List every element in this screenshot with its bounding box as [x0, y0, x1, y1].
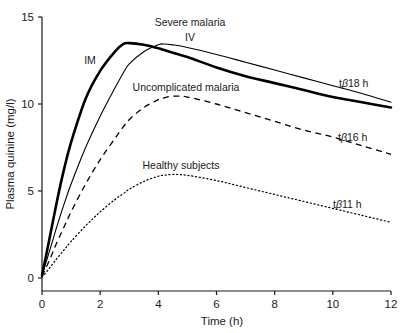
label-uncomplicated-malaria: Uncomplicated malaria: [133, 81, 240, 93]
x-axis-tick-label: 12: [385, 298, 398, 310]
y-axis-tick-label: 15: [21, 11, 34, 23]
half-life-18-value: 18 h: [348, 77, 369, 89]
curve-uncomplicated-malaria: [42, 96, 391, 276]
curve-annotations: Severe malaria IM IV Uncomplicated malar…: [84, 16, 368, 210]
x-axis-title: Time (h): [201, 315, 244, 327]
label-iv: IV: [185, 31, 195, 43]
label-healthy-subjects: Healthy subjects: [142, 159, 219, 171]
half-life-16-beta: β: [340, 131, 347, 143]
quinine-pharmacokinetics-figure: 051015 024681012 Time (h) Plasma quinine…: [0, 0, 405, 333]
half-life-18-beta: β: [341, 77, 348, 89]
half-life-11-value: 11 h: [342, 198, 362, 210]
label-half-life-18: tβ18 h: [339, 77, 369, 89]
half-life-11-beta: β: [335, 198, 342, 210]
curve-healthy-subjects: [42, 174, 391, 277]
label-half-life-11: tβ11 h: [333, 198, 362, 210]
y-axis-tick-labels: 051015: [21, 11, 34, 284]
x-axis-tick-label: 0: [39, 298, 45, 310]
x-axis-tick-label: 10: [326, 298, 339, 310]
plot-area: 051015 024681012 Time (h) Plasma quinine…: [0, 0, 405, 333]
y-axis-tick-label: 5: [28, 185, 34, 197]
half-life-16-value: 16 h: [347, 131, 368, 143]
label-severe-malaria: Severe malaria: [155, 16, 226, 28]
label-im: IM: [84, 54, 96, 66]
y-axis-title: Plasma quinine (mg/l): [4, 98, 16, 209]
label-half-life-16: tβ16 h: [338, 131, 368, 143]
y-axis-tick-label: 10: [21, 98, 34, 110]
y-axis-tick-label: 0: [28, 272, 34, 284]
x-axis-tick-label: 8: [271, 298, 277, 310]
x-axis-tick-labels: 024681012: [39, 298, 398, 310]
x-axis-tick-label: 2: [97, 298, 103, 310]
x-axis-tick-label: 6: [213, 298, 219, 310]
x-axis-tick-label: 4: [155, 298, 162, 310]
